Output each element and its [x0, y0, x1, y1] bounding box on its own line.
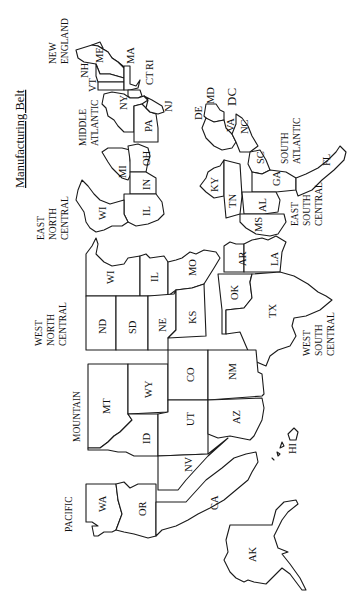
- label-west-north-central: WEST NORTH CENTRAL: [34, 302, 68, 346]
- label-pa: PA: [143, 119, 154, 132]
- label-al: AL: [257, 198, 268, 212]
- label-nc: NC: [239, 119, 250, 134]
- label-id: ID: [141, 433, 152, 444]
- label-nv: NV: [183, 456, 194, 472]
- label-mt: MT: [101, 398, 112, 414]
- label-in: IN: [141, 179, 152, 190]
- label-ms: MS: [253, 217, 264, 232]
- label-ok: OK: [229, 284, 240, 300]
- label-south-atlantic: SOUTH ATLANTIC: [280, 118, 302, 164]
- label-mo: MO: [187, 259, 198, 276]
- label-nh: NH: [79, 62, 90, 78]
- label-ar: AR: [237, 251, 248, 266]
- label-nd: ND: [97, 318, 108, 334]
- label-ky: KY: [209, 176, 220, 192]
- map-title: Manufacturing Belt: [13, 89, 27, 188]
- label-new-england: NEW ENGLAND: [48, 18, 70, 64]
- state-or: [116, 482, 156, 538]
- label-il: IL: [141, 206, 152, 216]
- label-me: ME: [94, 47, 105, 63]
- label-ma: MA: [125, 47, 136, 64]
- label-md: MD: [205, 87, 216, 104]
- label-ny: NY: [118, 94, 129, 110]
- label-la: LA: [269, 252, 280, 266]
- state-vt: [98, 82, 124, 90]
- label-ct: CT: [144, 71, 155, 85]
- label-nm: NM: [227, 362, 238, 380]
- label-ut: UT: [185, 411, 196, 426]
- label-west-south-central: WEST SOUTH CENTRAL: [302, 312, 336, 356]
- label-co: CO: [185, 367, 196, 382]
- label-wa: WA: [97, 495, 108, 512]
- label-ca: CA: [209, 495, 220, 510]
- label-mountain: MOUNTAIN: [72, 391, 82, 442]
- state-tn: [224, 160, 242, 218]
- label-nj: NJ: [163, 100, 174, 112]
- state-ma: [124, 66, 140, 90]
- label-pacific: PACIFIC: [64, 496, 74, 532]
- label-mi: MI: [117, 165, 128, 178]
- label-sd: SD: [127, 320, 138, 334]
- label-tn: TN: [227, 194, 238, 208]
- state-mn: [86, 238, 140, 296]
- label-ak: AK: [247, 546, 258, 562]
- region-middle-atlantic: [102, 92, 164, 142]
- label-wi: WI: [97, 206, 108, 220]
- label-vt: VT: [87, 77, 98, 92]
- label-sc: SC: [255, 151, 266, 164]
- label-oh: OH: [141, 150, 152, 166]
- label-va: VA: [225, 118, 236, 132]
- label-middle-atlantic: MIDDLE ATLANTIC: [78, 100, 100, 146]
- us-census-regions-map: Manufacturing Belt: [0, 0, 360, 610]
- label-east-north-central: EAST NORTH CENTRAL: [36, 196, 70, 240]
- state-ak: [224, 500, 306, 590]
- label-wy: WY: [143, 380, 154, 398]
- label-fl: FL: [321, 154, 332, 166]
- label-ga: GA: [271, 170, 282, 186]
- label-de: DE: [193, 106, 204, 120]
- label-ne: NE: [157, 318, 168, 332]
- label-or: OR: [137, 501, 148, 516]
- label-hi: HI: [287, 442, 298, 454]
- label-az: AZ: [231, 410, 242, 424]
- label-mn: WI: [105, 270, 116, 284]
- label-tx: TX: [267, 304, 278, 318]
- label-ia: IL: [149, 272, 160, 282]
- state-wi: [76, 180, 128, 232]
- label-ks: KS: [187, 310, 198, 324]
- label-dc: DC: [224, 88, 239, 106]
- label-ri: RI: [144, 59, 155, 70]
